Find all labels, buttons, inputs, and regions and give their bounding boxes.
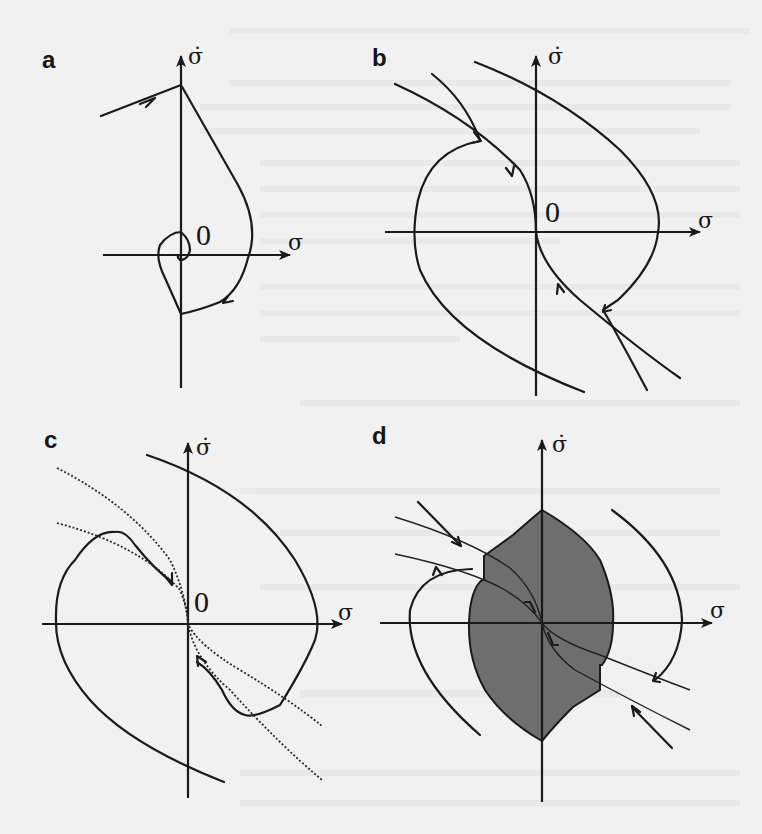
trajectory-a	[101, 85, 252, 314]
origin-label-c: 0	[194, 585, 209, 618]
panel-label-a: a	[42, 46, 56, 73]
panel-d: d σ̇ σ	[372, 422, 725, 802]
phase-portrait-figure: a σ̇ σ 0 b σ̇ σ 0 c	[0, 0, 762, 834]
y-axis-label-c: σ̇	[196, 435, 211, 460]
panel-b: b σ̇ σ 0	[372, 44, 713, 396]
trajectories-b	[395, 62, 680, 392]
origin-label-b: 0	[545, 195, 560, 228]
panel-c: c σ̇ σ 0	[42, 426, 353, 798]
panel-label-d: d	[372, 422, 387, 449]
y-axis-label-b: σ̇	[548, 44, 563, 69]
panel-label-c: c	[44, 426, 57, 453]
panel-label-b: b	[372, 44, 387, 71]
arrow-head-c1	[164, 573, 172, 585]
y-axis-label-a: σ̇	[188, 44, 203, 69]
origin-label-a: 0	[196, 218, 211, 251]
x-axis-label-d: σ	[710, 598, 725, 623]
x-axis-label-b: σ	[698, 208, 713, 233]
x-axis-label-a: σ	[288, 230, 303, 255]
x-axis-label-c: σ	[338, 600, 353, 625]
bleed-through-texture	[200, 28, 750, 806]
arrow-head-a2	[223, 296, 233, 303]
y-axis-label-d: σ̇	[552, 432, 567, 457]
